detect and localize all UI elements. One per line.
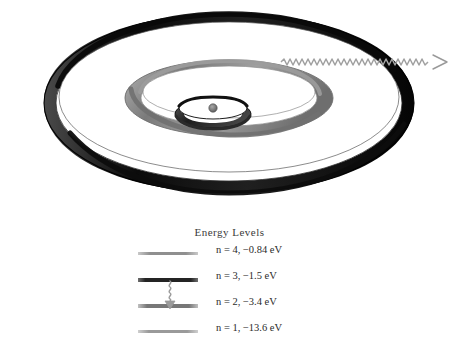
figure-root: Energy Levels n = 4, −0.84 eV n = 3, −1.… [0, 0, 459, 344]
energy-level-row-n1: n = 1, −13.6 eV [138, 322, 418, 342]
energy-level-line-n1 [138, 330, 198, 333]
energy-level-label-n4: n = 4, −0.84 eV [216, 244, 282, 255]
atom-orbit-diagram [0, 0, 459, 222]
energy-level-label-n1: n = 1, −13.6 eV [216, 322, 282, 333]
transition-wave-line [169, 281, 171, 302]
photon-arrowhead-icon [433, 55, 447, 69]
energy-levels-title: Energy Levels [0, 226, 459, 238]
energy-level-label-n2: n = 2, −3.4 eV [216, 296, 277, 307]
transition-arrowhead-icon [165, 301, 175, 309]
transition-arrow-n3-to-n2 [158, 280, 182, 310]
inner-orbit [175, 97, 251, 129]
energy-level-line-n4 [138, 252, 198, 255]
energy-level-diagram: Energy Levels n = 4, −0.84 eV n = 3, −1.… [0, 222, 459, 344]
energy-level-label-n3: n = 3, −1.5 eV [216, 270, 277, 281]
nucleus-dot [209, 104, 217, 112]
orbit-svg-canvas [0, 0, 459, 222]
energy-level-row-n4: n = 4, −0.84 eV [138, 244, 418, 264]
